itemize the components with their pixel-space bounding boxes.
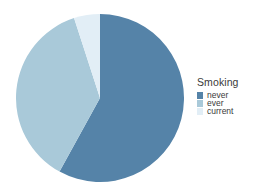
chart-legend: Smoking neverevercurrent [197,76,259,115]
legend-swatch-ever [197,100,203,107]
legend-swatch-never [197,92,203,99]
legend-swatch-current [197,108,203,115]
pie-chart: Smoking neverevercurrent [0,0,261,194]
legend-item-list: neverevercurrent [197,91,259,115]
legend-title: Smoking [197,76,259,89]
legend-item-current[interactable]: current [197,107,259,115]
pie-svg [16,14,184,182]
pie-slice-group [16,14,184,182]
legend-label-current: current [207,107,233,116]
pie-plot-area [16,14,184,182]
